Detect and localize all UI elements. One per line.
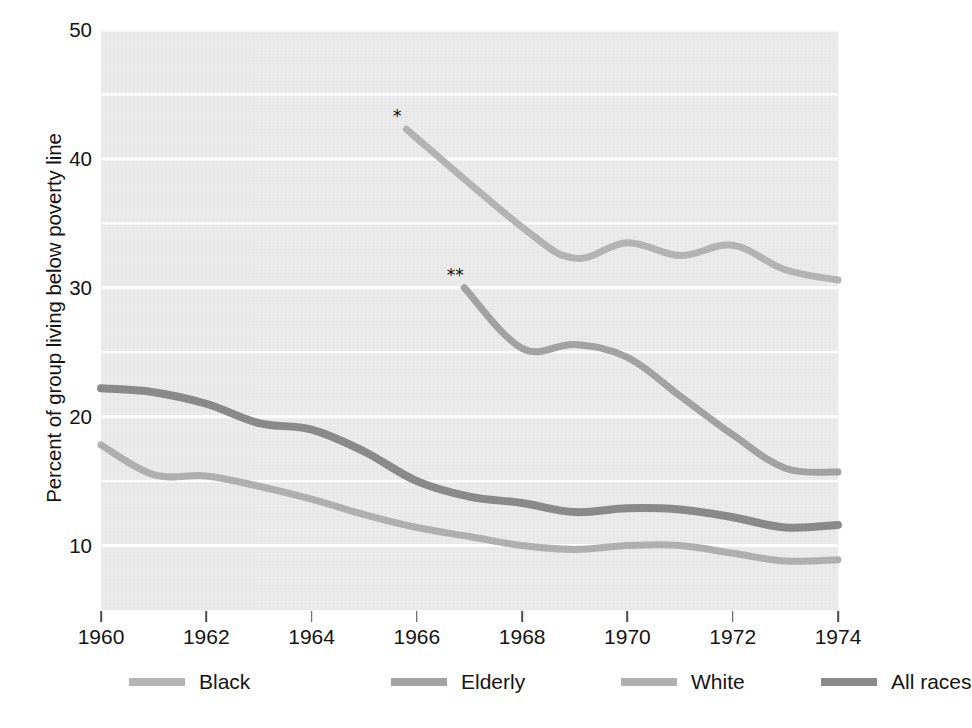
- y-tick-label: 30: [36, 276, 92, 300]
- series-lines: [101, 129, 838, 561]
- plot-area: ***: [101, 30, 838, 610]
- legend-swatch-icon: [621, 678, 677, 686]
- y-tick-label: 50: [36, 18, 92, 42]
- x-tick-mark: [311, 611, 313, 622]
- legend-swatch-icon: [821, 678, 877, 686]
- legend-item-all-races[interactable]: All races: [821, 670, 972, 694]
- asterisk-marker-black: *: [393, 108, 402, 125]
- x-tick-label: 1974: [815, 625, 862, 649]
- legend-item-black[interactable]: Black: [129, 670, 250, 694]
- x-axis-ticks: [101, 611, 838, 623]
- series-line-elderly: [464, 288, 838, 473]
- x-tick-label: 1966: [393, 625, 440, 649]
- x-tick-label: 1970: [604, 625, 651, 649]
- x-tick-label: 1972: [709, 625, 756, 649]
- legend-swatch-icon: [391, 678, 447, 686]
- series-line-all-races: [101, 388, 838, 528]
- series-line-white: [101, 445, 838, 561]
- asterisk-marker-elderly: **: [447, 266, 464, 283]
- x-tick-mark: [521, 611, 523, 622]
- legend-swatch-icon: [129, 678, 185, 686]
- x-tick-mark: [100, 611, 102, 622]
- legend-label: All races: [891, 670, 972, 694]
- x-tick-label: 1962: [183, 625, 230, 649]
- chart-canvas: [101, 30, 838, 610]
- legend-label: Elderly: [461, 670, 525, 694]
- x-tick-label: 1960: [78, 625, 125, 649]
- gridlines: [101, 30, 838, 546]
- x-tick-label: 1964: [288, 625, 335, 649]
- x-tick-mark: [837, 611, 839, 622]
- series-line-black: [406, 129, 838, 280]
- x-tick-label: 1968: [499, 625, 546, 649]
- y-tick-label: 10: [36, 534, 92, 558]
- x-tick-mark: [732, 611, 734, 622]
- chart-legend: BlackElderlyWhiteAll races: [101, 664, 861, 704]
- y-tick-label: 40: [36, 147, 92, 171]
- y-tick-label: 20: [36, 405, 92, 429]
- x-tick-mark: [627, 611, 629, 622]
- x-tick-mark: [416, 611, 418, 622]
- y-axis-tick-labels: 1020304050: [34, 0, 92, 728]
- x-tick-mark: [205, 611, 207, 622]
- legend-label: Black: [199, 670, 250, 694]
- legend-label: White: [691, 670, 745, 694]
- legend-item-white[interactable]: White: [621, 670, 745, 694]
- legend-item-elderly[interactable]: Elderly: [391, 670, 525, 694]
- x-axis-tick-labels: 19601962196419661968197019721974: [101, 625, 838, 655]
